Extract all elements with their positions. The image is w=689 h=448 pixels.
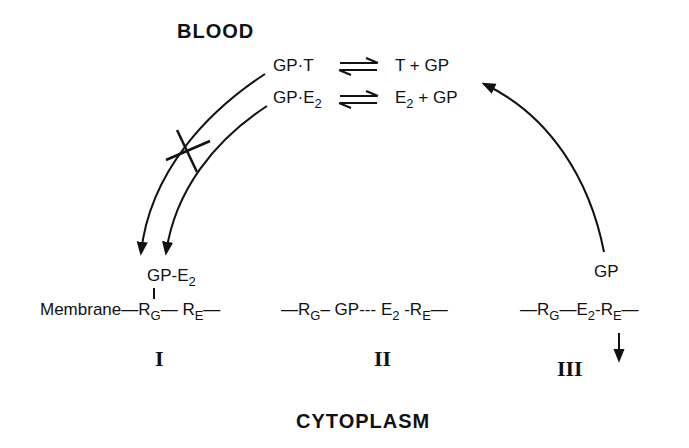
arrow-gp-to-blood xyxy=(484,84,604,252)
equilibrium-arrow-1 xyxy=(339,58,378,75)
region-label-blood: BLOOD xyxy=(177,20,254,43)
diagram-arrows xyxy=(0,0,689,448)
eq2-right: E2 + GP xyxy=(395,88,458,108)
complex-3-label: III xyxy=(557,356,583,382)
eq1-right: T + GP xyxy=(395,56,449,76)
equilibrium-arrow-2 xyxy=(339,91,378,108)
complex-3-released-gp: GP xyxy=(594,262,619,282)
eq1-left: GP·T xyxy=(273,56,314,76)
complex-2-label: II xyxy=(374,346,391,372)
complex-3-chain: —RG—E2-RE— xyxy=(520,300,639,320)
complex-2-chain: —RG– GP--- E2 -RE— xyxy=(281,300,448,320)
region-label-cytoplasm: CYTOPLASM xyxy=(296,410,430,433)
complex-1-bound-gp-e2: GP-E2 xyxy=(147,266,196,286)
complex-1-label: I xyxy=(155,346,164,372)
eq2-left: GP·E2 xyxy=(273,88,322,108)
arrow-gpe2-to-complex-1 xyxy=(166,106,267,253)
complex-1-chain: Membrane—RG— RE— xyxy=(40,300,220,320)
